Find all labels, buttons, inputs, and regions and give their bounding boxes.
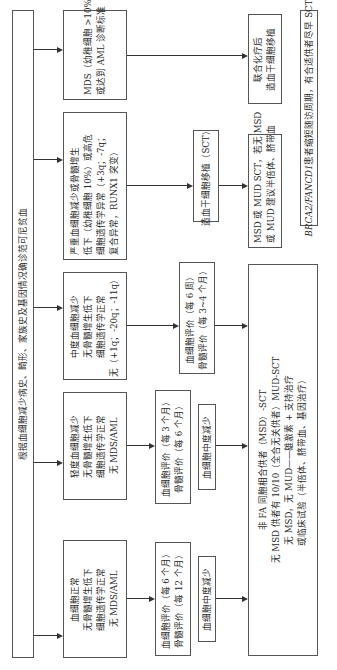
- connector-severe-sct: [127, 185, 191, 186]
- sct-box: 造血干细胞移植（SCT）: [193, 130, 219, 222]
- category-mds-line: 或达到 AML 诊断标准: [95, 6, 108, 95]
- monitor-mild-line: 骨髓评价（每 6 个月）: [173, 401, 186, 493]
- category-mild-box: 轻度血细胞减少 无骨髓增生低下 细胞遗传学正常 无 MDS/AML: [63, 392, 127, 500]
- outcome-line: 非 FA 同胞相合供者（MSD）-SCT: [257, 390, 270, 531]
- category-severe-line: 严重血细胞减少或骨髓增生: [69, 147, 82, 255]
- category-mild-line: 无骨髓增生低下: [82, 415, 95, 478]
- note-box: BRCA2/FANCD1 患者缩短随访周期，有合适供者尽早 SCT: [300, 10, 318, 226]
- outcome-msd-line: 或 MUD 建议半倍体、脐带血: [265, 125, 278, 243]
- category-severe-line: 复合异常，RUNX1 突变）: [108, 147, 121, 255]
- category-severe-line: 细胞遗传学异常（+3q；-7q；: [95, 133, 108, 255]
- outcome-line: 无 MSD，无 MUD——雄激素 + 支持治疗: [283, 375, 296, 545]
- connector-mds-chemo: [127, 55, 246, 56]
- progress-mild-text: 血细胞中度减少: [201, 416, 214, 479]
- category-moderate-box: 中度血细胞减少 无骨髓增生低下 细胞遗传学正常 无（+1q；-20q；-11q）: [63, 272, 127, 380]
- monitor-normal-line: 骨髓评价（每 12 个月）: [173, 550, 186, 647]
- note-gene: BRCA2/FANCD1: [303, 165, 316, 237]
- category-moderate-line: 无骨髓增生低下: [82, 295, 95, 358]
- progress-normal-box: 血细胞中度减少: [198, 556, 216, 642]
- flowchart-stage: 根据血细胞减少病史、畸形、家族史及基因情况确诊范可尼贫血 血细胞正常 无骨髓增生…: [0, 0, 337, 670]
- category-moderate-line: 细胞遗传学正常: [95, 295, 108, 358]
- sct-text: 造血干细胞移植（SCT）: [200, 126, 213, 225]
- outcome-chemo-line: 造血干细胞移植: [265, 28, 278, 91]
- category-severe-box: 严重血细胞减少或骨髓增生 低下（幼稚细胞 10%）或高危 细胞遗传学异常（+3q…: [63, 112, 127, 260]
- category-moderate-line: 中度血细胞减少: [69, 295, 82, 358]
- category-normal-line: 无 MDS/AML: [108, 571, 121, 628]
- category-mild-line: 轻度血细胞减少: [69, 415, 82, 478]
- outcome-chemo-sct-box: 联合化疗后 造血干细胞移植: [248, 14, 282, 104]
- category-severe-line: 低下（幼稚细胞 10%）或高危: [82, 134, 95, 255]
- monitor-mild-line: 血细胞评价（每 3 个月）: [160, 397, 173, 498]
- outcome-non-fa-msd-box: 非 FA 同胞相合供者（MSD）-SCT 无 MSD 供者有 10/10（全合无…: [248, 264, 318, 656]
- category-moderate-line: 无（+1q；-20q；-11q）: [108, 275, 121, 377]
- root-box: 根据血细胞减少病史、畸形、家族史及基因情况确诊范可尼贫血: [12, 10, 34, 658]
- category-normal-line: 无骨髓增生低下: [82, 568, 95, 631]
- outcome-line: 或临床试验（半倍体、脐带血、基因治疗）: [296, 375, 309, 546]
- category-normal-line: 血细胞正常: [69, 577, 82, 622]
- category-mild-line: 细胞遗传学正常: [95, 415, 108, 478]
- category-normal-box: 血细胞正常 无骨髓增生低下 细胞遗传学正常 无 MDS/AML: [63, 540, 127, 658]
- category-mds-line: MDS（幼稚细胞 >10%）: [82, 0, 95, 95]
- connector-moderate-monitor: [127, 325, 177, 326]
- outcome-msd-mud-box: MSD 或 MUD SCT，若无 MSD 或 MUD 建议半倍体、脐带血: [248, 134, 282, 248]
- monitor-moderate-line: 骨髓评价（每 3~4 个月）: [197, 266, 210, 371]
- outcome-chemo-line: 联合化疗后: [252, 37, 265, 82]
- monitor-normal-box: 血细胞评价（每 6 个月） 骨髓评价（每 12 个月）: [155, 542, 191, 656]
- category-mild-line: 无 MDS/AML: [108, 418, 121, 475]
- monitor-moderate-box: 血细胞评价（每 6 周） 骨髓评价（每 3~4 个月）: [179, 262, 215, 374]
- monitor-normal-line: 血细胞评价（每 6 个月）: [160, 549, 173, 650]
- category-normal-line: 细胞遗传学正常: [95, 568, 108, 631]
- outcome-line: 无 MSD 供者有 10/10（全合无关供者）MUD-SCT: [270, 357, 283, 564]
- outcome-msd-line: MSD 或 MUD SCT，若无 MSD: [252, 112, 265, 243]
- root-text: 根据血细胞减少病史、畸形、家族史及基因情况确诊范可尼贫血: [17, 208, 30, 460]
- monitor-mild-box: 血细胞评价（每 3 个月） 骨髓评价（每 6 个月）: [155, 390, 191, 504]
- progress-normal-text: 血细胞中度减少: [201, 568, 214, 631]
- category-mds-aml-box: MDS（幼稚细胞 >10%） 或达到 AML 诊断标准: [63, 10, 127, 100]
- progress-mild-box: 血细胞中度减少: [198, 404, 216, 490]
- monitor-moderate-line: 血细胞评价（每 6 周）: [184, 272, 197, 364]
- note-text: 患者缩短随访周期，有合适供者尽早 SCT: [303, 0, 316, 165]
